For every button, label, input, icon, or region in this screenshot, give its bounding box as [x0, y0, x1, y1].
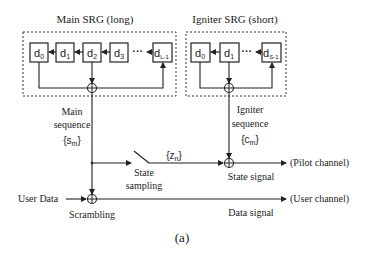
sampling-switch-icon [134, 151, 149, 163]
main-sequence-label-2: sequence [54, 119, 91, 130]
igniter-srg-ellipsis: ··· [241, 45, 252, 57]
main-srg-cell-1: d1 [56, 43, 74, 62]
main-srg-cell-3: d3 [110, 43, 128, 62]
igniter-srg-xor-icon [225, 84, 234, 93]
scrambling-xor-icon [88, 195, 97, 204]
main-srg-ellipsis: ··· [132, 45, 143, 57]
main-srg-cell-last: dL-1 [153, 43, 172, 62]
main-srg-cell-2: d2 [83, 43, 101, 62]
main-srg-boundary [23, 32, 176, 96]
state-xor-icon [225, 159, 234, 168]
igniter-srg-cell-last: dS-1 [262, 43, 281, 62]
igniter-sequence-symbol: {cm} [241, 134, 259, 146]
main-srg-feedback [39, 62, 163, 88]
igniter-srg-boundary [186, 32, 286, 96]
igniter-srg-cell-1: d1 [220, 43, 239, 62]
user-data-label: User Data [18, 193, 59, 204]
state-signal-label: State signal [228, 171, 275, 182]
state-sampling-label-2: sampling [126, 180, 163, 191]
igniter-sequence-label-2: sequence [232, 118, 269, 129]
user-channel-label: (User channel) [290, 193, 349, 205]
main-srg-xor-icon [88, 84, 97, 93]
main-sequence-label-1: Main [61, 106, 82, 117]
igniter-srg-title: Igniter SRG (short) [192, 13, 278, 26]
main-srg-cell-0: d0 [30, 43, 48, 62]
scrambling-label: Scrambling [69, 209, 115, 220]
main-srg-title: Main SRG (long) [57, 13, 134, 26]
main-sequence-symbol: {sm} [63, 135, 81, 147]
igniter-srg-cell-0: d0 [191, 43, 210, 62]
srg-block-diagram: Main SRG (long) d0 d1 d2 d3 dL-1 ··· [0, 0, 369, 256]
figure-caption: (a) [175, 230, 189, 245]
igniter-srg-feedback [200, 62, 272, 88]
data-signal-label: Data signal [228, 207, 273, 218]
pilot-channel-label: (Pilot channel) [290, 157, 349, 169]
igniter-sequence-label-1: Igniter [237, 104, 264, 115]
zn-symbol: {zn} [166, 150, 182, 162]
state-sampling-label-1: State [134, 167, 155, 178]
